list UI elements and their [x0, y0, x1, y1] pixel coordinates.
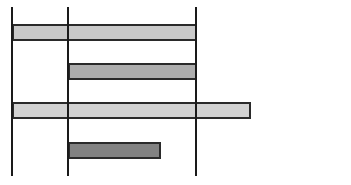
vertical-reference-line-2	[67, 7, 69, 176]
bar-4	[68, 142, 161, 159]
bar-1	[12, 24, 197, 41]
bar-diagram	[0, 0, 351, 185]
vertical-reference-line-1	[11, 7, 13, 176]
vertical-reference-line-3	[195, 7, 197, 176]
bar-3	[12, 102, 251, 119]
bar-2	[68, 63, 197, 80]
